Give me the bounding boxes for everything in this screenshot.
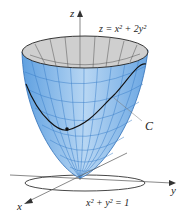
curve-c-label: C bbox=[145, 120, 153, 132]
cylinder-equation-label: x² + y² = 1 bbox=[86, 198, 129, 208]
x-axis-label: x bbox=[17, 201, 22, 212]
curve-point bbox=[65, 127, 69, 131]
paraboloid-surface bbox=[22, 50, 148, 178]
unit-circle-ellipse bbox=[25, 175, 145, 191]
z-axis-label: z bbox=[70, 8, 74, 19]
x-axis-arrow-icon bbox=[24, 198, 33, 204]
surface-equation-label: z = x² + 2y² bbox=[99, 24, 146, 34]
y-axis-label: y bbox=[171, 185, 176, 196]
z-axis-arrow-icon bbox=[77, 10, 83, 17]
diagram-canvas bbox=[0, 0, 186, 218]
paraboloid-rim bbox=[22, 36, 148, 68]
